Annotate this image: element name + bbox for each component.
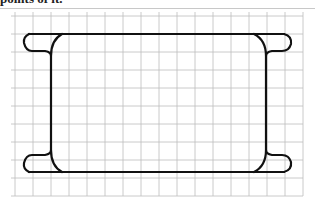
- grid-diagram: [0, 0, 315, 202]
- rounded-frame-shape: [24, 34, 291, 172]
- bottom-left-ear: [24, 150, 62, 172]
- top-left-ear: [24, 34, 62, 56]
- top-right-ear: [254, 34, 291, 56]
- bottom-right-ear: [254, 150, 291, 172]
